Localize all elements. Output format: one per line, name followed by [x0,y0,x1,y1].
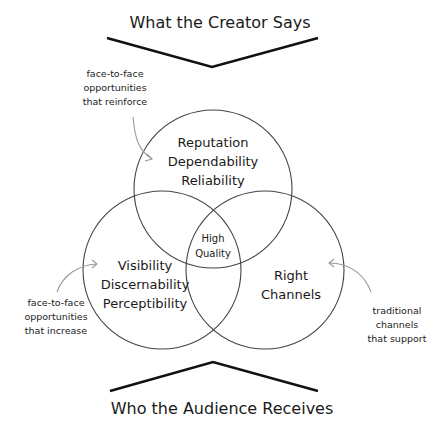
circle-top-label: Reputation Dependability Reliability [168,135,259,188]
annotation-bottom-right-line-2: channels [376,319,419,330]
circle-right-label: Right Channels [261,268,321,302]
annotation-top-left-line-2: opportunities [83,82,146,93]
top-chevron [107,38,318,67]
circle-right [186,191,344,349]
circle-right-line-1: Right [274,268,308,283]
center-label: High Quality [195,233,231,259]
annotation-bottom-right: traditional channels that support [368,305,427,344]
annotation-bottom-left-line-2: opportunities [24,311,87,322]
circle-left-line-3: Perceptibility [103,296,188,311]
footer-title: Who the Audience Receives [111,399,334,418]
annotation-top-left-line-3: that reinforce [83,96,148,107]
circle-top-line-2: Dependability [168,154,259,169]
annotation-top-left-line-1: face-to-face [86,68,143,79]
circle-left-line-2: Discernability [101,277,190,292]
venn-diagram: What the Creator Says Reputation Dependa… [0,0,445,430]
circle-left-line-1: Visibility [118,258,173,273]
circle-top-line-1: Reputation [178,135,249,150]
annotation-top-left: face-to-face opportunities that reinforc… [83,68,148,107]
circle-right-line-2: Channels [261,287,321,302]
annotation-bottom-left-line-1: face-to-face [27,297,84,308]
circle-left-label: Visibility Discernability Perceptibility [101,258,190,311]
header-title: What the Creator Says [129,13,310,32]
circle-top [134,110,292,268]
annotation-bottom-left: face-to-face opportunities that increase [24,297,87,336]
annotation-bottom-right-line-3: that support [368,333,427,344]
annotation-bottom-right-line-1: traditional [373,305,422,316]
annotation-bottom-left-line-3: that increase [25,325,88,336]
arrow-bottom-left [57,264,97,292]
center-line-2: Quality [195,248,231,259]
circle-top-line-3: Reliability [181,173,245,188]
bottom-chevron [110,362,318,391]
arrow-bottom-right [329,263,371,292]
center-line-1: High [202,233,225,244]
